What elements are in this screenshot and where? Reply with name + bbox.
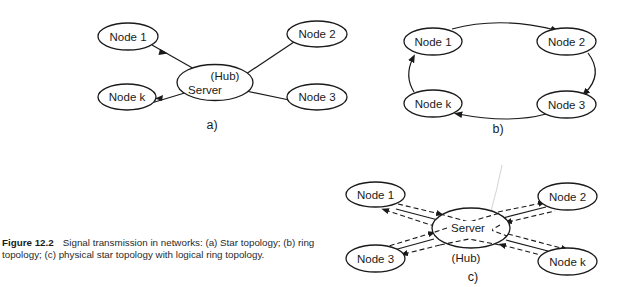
server-hub-label: (Hub) xyxy=(452,252,481,264)
diagram-a-label: a) xyxy=(206,118,217,132)
edge-nodek-to-node1 xyxy=(409,58,414,92)
node-k-label: Node k xyxy=(109,91,146,103)
edge-node1-to-server xyxy=(152,45,196,70)
link-server-to-node2 xyxy=(498,203,542,212)
link-node1-to-server xyxy=(398,204,440,214)
node-3-label: Node 3 xyxy=(548,99,585,111)
node-3-label: Node 3 xyxy=(357,253,394,265)
node-k-label: Node k xyxy=(415,98,452,110)
edge-node3-to-nodek xyxy=(458,114,546,119)
edge-node2-to-node3 xyxy=(585,53,595,93)
server-label: Server xyxy=(188,84,222,96)
diagram-b-label: b) xyxy=(492,122,503,136)
edge-node1-to-node2 xyxy=(452,23,555,30)
node-2-label: Node 2 xyxy=(548,36,585,48)
link-node2-to-server xyxy=(508,211,555,222)
node-2-label: Node 2 xyxy=(298,28,335,40)
cable-node1 xyxy=(396,209,438,220)
link-server-to-nodek xyxy=(508,234,565,249)
node-3-label: Node 3 xyxy=(298,91,335,103)
stray-mark xyxy=(490,165,502,215)
server-hub-label: (Hub) xyxy=(211,70,240,82)
node-k-label: Node k xyxy=(549,256,586,268)
node-1-label: Node 1 xyxy=(109,31,146,43)
node-1-label: Node 1 xyxy=(414,36,451,48)
arrow-icon xyxy=(159,49,169,55)
diagram-c-star-ring-topology: Node 1 Node 2 Node 3 Node k Server (Hub)… xyxy=(346,165,597,284)
diagram-c-label: c) xyxy=(468,270,478,284)
node-1-label: Node 1 xyxy=(357,189,394,201)
edge-server-node2 xyxy=(246,42,294,74)
node-2-label: Node 2 xyxy=(549,191,586,203)
figure-number: Figure 12.2 xyxy=(2,237,54,248)
link-node3-to-server xyxy=(382,233,432,248)
figure-caption: Figure 12.2Signal transmission in networ… xyxy=(2,237,332,260)
link-nodek-to-server xyxy=(502,245,545,256)
cable-node2 xyxy=(503,207,546,218)
server-label: Server xyxy=(451,222,485,234)
diagram-a-star-topology: Node 1 Node 2 Node 3 Node k (Hub) Server… xyxy=(98,21,347,132)
cable-nodek xyxy=(506,240,548,251)
diagram-b-ring-topology: Node 1 Node 2 Node 3 Node k b) xyxy=(404,23,596,136)
